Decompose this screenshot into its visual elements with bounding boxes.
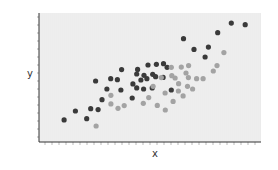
data-point-light xyxy=(108,93,113,98)
data-point-light xyxy=(190,86,195,91)
data-point-dark xyxy=(130,81,135,86)
data-point-dark xyxy=(88,106,93,111)
data-point-light xyxy=(108,101,113,106)
data-point-light xyxy=(185,84,190,89)
data-point-light xyxy=(163,107,168,112)
x-axis-label: x xyxy=(152,148,158,159)
data-point-dark xyxy=(119,67,124,72)
data-point-dark xyxy=(118,87,123,92)
data-point-light xyxy=(214,63,219,68)
data-point-light xyxy=(122,103,127,108)
data-point-dark xyxy=(229,21,234,26)
data-point-light xyxy=(179,65,184,70)
data-point-dark xyxy=(191,47,196,52)
data-point-dark xyxy=(181,36,186,41)
data-point-dark xyxy=(138,77,143,82)
data-point-dark xyxy=(104,86,109,91)
data-point-dark xyxy=(243,22,248,27)
data-point-light xyxy=(211,68,216,73)
data-point-dark xyxy=(141,86,146,91)
data-point-dark xyxy=(130,95,135,100)
data-point-light xyxy=(155,103,160,108)
data-point-dark xyxy=(134,71,139,76)
data-point-dark xyxy=(93,78,98,83)
data-point-light xyxy=(159,75,164,80)
data-point-light xyxy=(169,73,174,78)
data-point-light xyxy=(181,93,186,98)
data-point-dark xyxy=(96,107,101,112)
data-point-light xyxy=(221,50,226,55)
data-point-dark xyxy=(206,45,211,50)
data-point-dark xyxy=(115,77,120,82)
data-point-dark xyxy=(108,76,113,81)
data-point-dark xyxy=(73,108,78,113)
data-point-light xyxy=(176,81,181,86)
data-point-dark xyxy=(154,62,159,67)
data-point-dark xyxy=(153,74,158,79)
plot-area xyxy=(39,13,261,142)
data-point-light xyxy=(163,90,168,95)
data-point-light xyxy=(186,75,191,80)
data-point-light xyxy=(186,63,191,68)
y-axis-label: y xyxy=(27,68,33,79)
data-point-light xyxy=(94,123,99,128)
data-point-dark xyxy=(169,87,174,92)
data-point-dark xyxy=(203,54,208,59)
data-point-dark xyxy=(144,76,149,81)
data-point-light xyxy=(176,88,181,93)
data-point-light xyxy=(141,101,146,106)
data-point-dark xyxy=(135,67,140,72)
scatter-chart xyxy=(0,0,278,170)
data-point-light xyxy=(171,99,176,104)
data-point-dark xyxy=(99,97,104,102)
data-point-light xyxy=(146,95,151,100)
data-point-light xyxy=(169,65,174,70)
data-point-light xyxy=(194,76,199,81)
data-point-dark xyxy=(134,85,139,90)
data-point-dark xyxy=(62,117,67,122)
data-point-dark xyxy=(215,30,220,35)
data-point-light xyxy=(183,70,188,75)
data-point-light xyxy=(151,84,156,89)
data-point-dark xyxy=(84,116,89,121)
data-point-light xyxy=(201,76,206,81)
data-point-light xyxy=(115,106,120,111)
data-point-dark xyxy=(145,62,150,67)
